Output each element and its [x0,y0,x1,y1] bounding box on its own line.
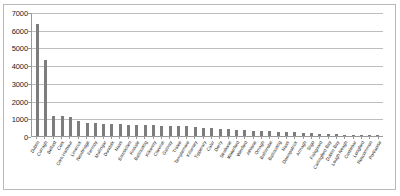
x-label-slot: Ballinrobe [265,139,273,191]
bar-slot [149,13,157,136]
bar[interactable] [110,124,113,136]
y-tick-label: 5000 [12,44,28,53]
bar-slot [41,13,49,136]
bar[interactable] [268,131,271,136]
bar[interactable] [360,135,363,136]
bar-slot [274,13,282,136]
x-label-slot: Portlaoise [373,139,381,191]
bar[interactable] [352,135,355,136]
bar[interactable] [169,126,172,136]
x-tick-mark [269,137,270,139]
x-tick-mark [203,137,204,139]
bar[interactable] [177,126,180,136]
bar-slot [341,13,349,136]
x-tick-mark [236,137,237,139]
x-tick-mark [53,137,54,139]
bar[interactable] [293,132,296,136]
x-tick-mark [294,137,295,139]
bar[interactable] [318,134,321,136]
bar[interactable] [252,131,255,136]
x-label-slot: Naas [115,139,123,191]
bar[interactable] [44,60,47,136]
bar[interactable] [36,24,39,136]
x-label-slot: Wexford [240,139,248,191]
bar-slot [349,13,357,136]
bar-slot [257,13,265,136]
x-tick-mark [94,137,95,139]
bar[interactable] [260,131,263,136]
bar-slot [33,13,41,136]
chart-figure: 01000200030004000500060007000 DublinCurr… [0,0,400,196]
bar[interactable] [202,128,205,136]
x-tick-mark [378,137,379,139]
x-tick-mark [153,137,154,139]
bar[interactable] [210,128,213,136]
bar[interactable] [235,130,238,136]
bar-slot [91,13,99,136]
bar[interactable] [227,129,230,136]
x-tick-mark [119,137,120,139]
bar[interactable] [152,125,155,136]
x-tick-mark [128,137,129,139]
bar[interactable] [102,124,105,136]
x-tick-mark [86,137,87,139]
bar-slot [191,13,199,136]
bar[interactable] [310,133,313,136]
bar[interactable] [302,133,305,136]
x-label-slot: Cork Harbour [65,139,73,191]
bar[interactable] [69,117,72,136]
bar-slot [50,13,58,136]
bar[interactable] [368,135,371,136]
bar[interactable] [243,130,246,136]
bar[interactable] [160,126,163,136]
x-tick-mark [178,137,179,139]
bar[interactable] [285,132,288,136]
bar-slot [249,13,257,136]
bar[interactable] [219,129,222,136]
y-tick-label: 6000 [12,26,28,35]
bar-slot [141,13,149,136]
bar[interactable] [144,125,147,136]
bar-slot [266,13,274,136]
bar-slot [216,13,224,136]
x-tick-mark [311,137,312,139]
x-tick-mark [61,137,62,139]
y-tick-label: 4000 [12,62,28,71]
bar[interactable] [194,127,197,136]
x-tick-mark [36,137,37,139]
bar[interactable] [376,135,379,136]
bar-slot [166,13,174,136]
x-tick-mark [169,137,170,139]
bar[interactable] [327,134,330,136]
bar-slot [332,13,340,136]
bar-slot [299,13,307,136]
bar[interactable] [61,116,64,136]
bar[interactable] [94,123,97,136]
x-tick-mark [78,137,79,139]
bar-slot [100,13,108,136]
bar-slot [357,13,365,136]
bar[interactable] [119,124,122,136]
bar[interactable] [343,135,346,136]
x-label-slot: Roscommon [365,139,373,191]
x-tick-mark [44,137,45,139]
bar[interactable] [77,121,80,136]
bar[interactable] [86,123,89,136]
x-tick-mark [111,137,112,139]
bar[interactable] [135,125,138,136]
x-label-slot: Downpatrick [290,139,298,191]
bar[interactable] [52,116,55,136]
plot-area [31,13,383,137]
bar[interactable] [277,132,280,136]
bar[interactable] [335,134,338,136]
x-tick-mark [244,137,245,139]
x-tick-mark [361,137,362,139]
bar-slot [282,13,290,136]
x-tick-mark [303,137,304,139]
x-label-slot: Fermoy [90,139,98,191]
bar-slot [116,13,124,136]
bar[interactable] [127,125,130,136]
bar[interactable] [185,126,188,136]
bar-slot [291,13,299,136]
bar-slot [316,13,324,136]
